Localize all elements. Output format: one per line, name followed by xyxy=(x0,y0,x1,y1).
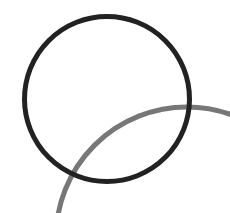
gray-arc xyxy=(56,107,230,213)
diagram-canvas xyxy=(0,0,230,213)
black-circle xyxy=(25,17,190,182)
